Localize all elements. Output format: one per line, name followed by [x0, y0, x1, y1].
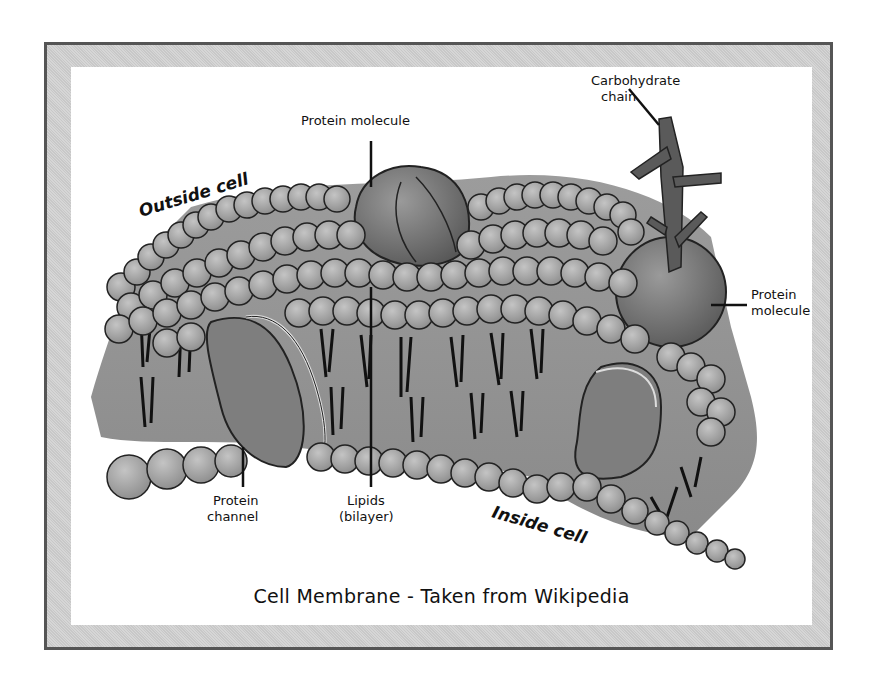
label-lipids-line2: (bilayer) — [339, 509, 394, 524]
label-lipids-line1: Lipids — [347, 493, 385, 508]
figure-panel: Protein molecule Carbohydrate chain Prot… — [71, 67, 812, 625]
figure-caption: Cell Membrane - Taken from Wikipedia — [71, 585, 812, 607]
label-protein-channel-line1: Protein — [213, 493, 259, 508]
label-protein-right-line2: molecule — [751, 303, 810, 318]
label-protein-right-line1: Protein — [751, 287, 797, 302]
label-protein-molecule-top: Protein molecule — [301, 113, 410, 128]
label-inside-cell: Inside cell — [490, 502, 590, 548]
label-carbohydrate-line2: chain — [601, 89, 636, 104]
figure-frame: Protein molecule Carbohydrate chain Prot… — [44, 42, 833, 650]
label-protein-channel-line2: channel — [207, 509, 258, 524]
label-carbohydrate-line1: Carbohydrate — [591, 73, 680, 88]
cell-membrane-diagram: Protein molecule Carbohydrate chain Prot… — [71, 67, 812, 625]
